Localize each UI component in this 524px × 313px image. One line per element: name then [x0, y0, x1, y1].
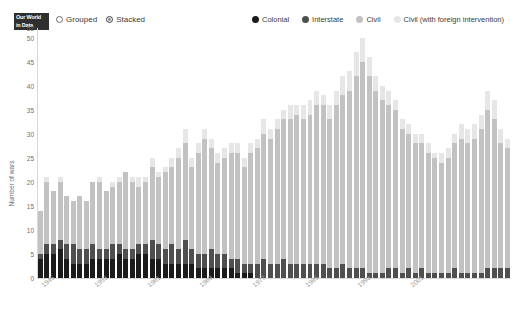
bar-column[interactable] [340, 28, 347, 278]
bar-column[interactable] [379, 28, 386, 278]
bar-column[interactable] [412, 28, 419, 278]
bar-stack [209, 139, 214, 278]
bar-segment-civil [235, 153, 240, 259]
bar-column[interactable] [228, 28, 235, 278]
bar-column[interactable] [169, 28, 176, 278]
bar-segment-civil-with-foreign-intervention [367, 57, 372, 76]
bar-column[interactable] [307, 28, 314, 278]
bar-column[interactable] [333, 28, 340, 278]
bar-column[interactable] [90, 28, 97, 278]
bar-column[interactable] [234, 28, 241, 278]
bar-column[interactable] [359, 28, 366, 278]
bar-segment-colonial [64, 259, 69, 278]
bar-column[interactable] [458, 28, 465, 278]
bar-column[interactable] [386, 28, 393, 278]
bar-column[interactable] [37, 28, 44, 278]
bar-column[interactable] [215, 28, 222, 278]
bar-stack [393, 100, 398, 278]
bar-column[interactable] [109, 28, 116, 278]
bar-column[interactable] [399, 28, 406, 278]
bar-segment-civil-with-foreign-intervention [196, 143, 201, 153]
bar-column[interactable] [353, 28, 360, 278]
bar-column[interactable] [162, 28, 169, 278]
bar-column[interactable] [63, 28, 70, 278]
bar-segment-civil [465, 143, 470, 273]
bar-column[interactable] [320, 28, 327, 278]
bar-column[interactable] [313, 28, 320, 278]
bar-column[interactable] [149, 28, 156, 278]
bar-stack [156, 172, 161, 278]
bar-segment-interstate [209, 249, 214, 268]
bar-column[interactable] [419, 28, 426, 278]
bar-column[interactable] [57, 28, 64, 278]
bar-column[interactable] [201, 28, 208, 278]
bar-column[interactable] [287, 28, 294, 278]
bar-column[interactable] [425, 28, 432, 278]
bar-column[interactable] [248, 28, 255, 278]
legend-item-civil-with-foreign-intervention[interactable]: Civil (with foreign intervention) [394, 15, 504, 24]
bar-column[interactable] [478, 28, 485, 278]
bar-column[interactable] [392, 28, 399, 278]
bar-column[interactable] [267, 28, 274, 278]
bar-column[interactable] [254, 28, 261, 278]
bar-column[interactable] [405, 28, 412, 278]
bar-column[interactable] [142, 28, 149, 278]
legend-item-interstate[interactable]: Interstate [302, 15, 343, 24]
bar-column[interactable] [129, 28, 136, 278]
bar-segment-interstate [340, 264, 345, 278]
bar-column[interactable] [175, 28, 182, 278]
bar-column[interactable] [465, 28, 472, 278]
bar-column[interactable] [372, 28, 379, 278]
bar-column[interactable] [300, 28, 307, 278]
bar-column[interactable] [445, 28, 452, 278]
radio-option-grouped[interactable]: Grouped [56, 15, 97, 24]
bar-column[interactable] [261, 28, 268, 278]
bar-stack [183, 129, 188, 278]
bar-column[interactable] [70, 28, 77, 278]
legend-item-civil[interactable]: Civil [356, 15, 380, 24]
bar-column[interactable] [274, 28, 281, 278]
bar-stack [446, 148, 451, 278]
bar-stack [432, 153, 437, 278]
bar-segment-civil [189, 167, 194, 249]
bar-column[interactable] [280, 28, 287, 278]
bar-segment-civil [58, 182, 63, 240]
bar-stack [242, 158, 247, 278]
bar-column[interactable] [497, 28, 504, 278]
bar-column[interactable] [491, 28, 498, 278]
bar-column[interactable] [326, 28, 333, 278]
bar-column[interactable] [155, 28, 162, 278]
legend-item-colonial[interactable]: Colonial [252, 15, 289, 24]
bar-column[interactable] [432, 28, 439, 278]
bar-column[interactable] [438, 28, 445, 278]
bar-column[interactable] [182, 28, 189, 278]
bar-column[interactable] [241, 28, 248, 278]
bar-column[interactable] [346, 28, 353, 278]
bar-column[interactable] [136, 28, 143, 278]
bar-segment-colonial [58, 249, 63, 278]
bar-stack [104, 191, 109, 278]
bar-column[interactable] [294, 28, 301, 278]
bar-column[interactable] [44, 28, 51, 278]
bar-column[interactable] [484, 28, 491, 278]
radio-option-stacked[interactable]: Stacked [106, 15, 145, 24]
bar-column[interactable] [366, 28, 373, 278]
bar-column[interactable] [103, 28, 110, 278]
bar-column[interactable] [50, 28, 57, 278]
bar-column[interactable] [504, 28, 511, 278]
bar-column[interactable] [221, 28, 228, 278]
bar-segment-interstate [97, 249, 102, 259]
bar-column[interactable] [195, 28, 202, 278]
y-axis-tick-label: 5 [30, 250, 34, 257]
bar-column[interactable] [116, 28, 123, 278]
bar-segment-colonial [189, 264, 194, 278]
bar-column[interactable] [76, 28, 83, 278]
bar-column[interactable] [471, 28, 478, 278]
bar-column[interactable] [96, 28, 103, 278]
bar-column[interactable] [123, 28, 130, 278]
bar-segment-interstate [222, 254, 227, 268]
bar-column[interactable] [188, 28, 195, 278]
bar-column[interactable] [451, 28, 458, 278]
bar-column[interactable] [83, 28, 90, 278]
bar-column[interactable] [208, 28, 215, 278]
